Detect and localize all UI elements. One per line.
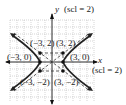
- x-axis-label: x: [97, 55, 102, 65]
- y-axis-arrow-icon: [50, 13, 54, 19]
- x-scale-label: (scl = 2): [92, 65, 122, 75]
- point-label: (−3, 0): [7, 52, 32, 62]
- point-label: (3, 2): [56, 38, 76, 48]
- y-axis-arrow-down-icon: [50, 100, 54, 105]
- point-label: (3, −2): [54, 77, 79, 87]
- point-label: (−3, −2): [20, 77, 50, 87]
- point-label: (3, 0): [70, 52, 90, 62]
- hyperbola-graph: (−3, 2) (3, 2) (−3, 0) (3, 0) (−3, −2) (…: [0, 0, 126, 105]
- y-scale-label: (scl = 2): [64, 4, 94, 14]
- y-axis-label: y: [54, 4, 59, 14]
- point-label: (−3, 2): [30, 38, 55, 48]
